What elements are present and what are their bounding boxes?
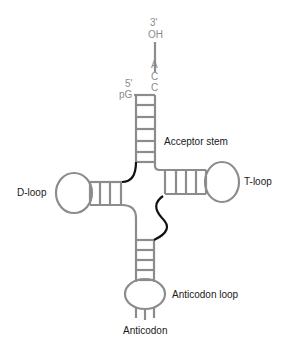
d-arm-bottom-strand: [90, 205, 136, 240]
d-loop-label: D-loop: [17, 188, 46, 198]
anticodon-loop-label: Anticodon loop: [172, 290, 238, 300]
t-loop-label: T-loop: [244, 177, 272, 187]
t-arm-top-strand: [155, 166, 206, 170]
anticodon-loop-shape: [125, 279, 165, 309]
anticodon-label: Anticodon: [123, 326, 167, 336]
d-loop-shape: [56, 173, 92, 213]
five-prime-label: 5': [125, 79, 132, 89]
trna-cloverleaf: [0, 0, 284, 350]
acceptor-d-linker: [122, 162, 136, 182]
base-a: A: [151, 60, 158, 70]
acceptor-stem-label: Acceptor stem: [164, 137, 228, 147]
pg-group: pG: [119, 90, 132, 100]
t-loop-shape: [205, 162, 239, 202]
oh-group: OH: [148, 30, 163, 40]
variable-loop: [154, 196, 167, 240]
three-prime-label: 3': [150, 18, 157, 28]
base-c2: C: [151, 83, 158, 93]
base-c1: C: [151, 72, 158, 82]
